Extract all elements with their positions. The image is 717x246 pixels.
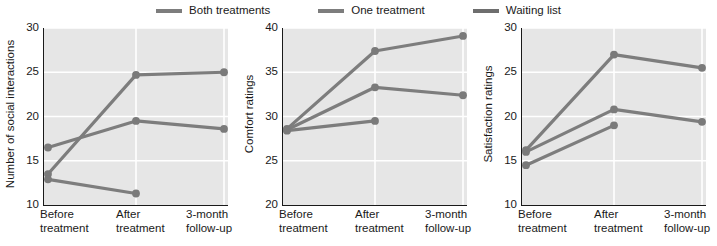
x-tick-label-line: treatment [279, 222, 328, 236]
data-point-marker [610, 106, 618, 114]
x-tick-label-line: Before [279, 208, 328, 222]
y-axis-tick-labels: 1015202530 [494, 22, 520, 205]
x-tick-label: Beforetreatment [40, 208, 89, 235]
x-axis-tick-labels: BeforetreatmentAftertreatment3-monthfoll… [283, 208, 467, 244]
chart-panel-3: Satisfaction ratings1015202530Beforetrea… [478, 22, 717, 246]
x-tick-label-line: follow-up [186, 222, 232, 236]
x-tick-label-line: treatment [594, 222, 643, 236]
figure-root: Both treatmentsOne treatmentWaiting list… [0, 0, 717, 246]
y-axis-title-text: Number of social interactions [4, 39, 16, 187]
x-tick-label-line: treatment [518, 222, 567, 236]
legend-label-one: One treatment [351, 5, 425, 17]
x-tick-label: 3-monthfollow-up [664, 208, 710, 235]
x-tick-label-line: follow-up [664, 222, 710, 236]
x-axis-line [521, 205, 706, 206]
y-tick-label: 40 [265, 22, 278, 34]
data-point-marker [522, 148, 530, 156]
y-tick-label: 25 [265, 155, 278, 167]
data-point-marker [132, 190, 140, 198]
x-tick-label: Beforetreatment [518, 208, 567, 235]
data-point-marker [459, 32, 467, 40]
y-axis-line [282, 28, 283, 205]
data-point-marker [459, 91, 467, 99]
data-point-marker [283, 127, 291, 135]
chart-panel-1: Number of social interactions1015202530B… [0, 22, 239, 246]
y-tick-label: 10 [504, 199, 517, 211]
x-tick-label-line: 3-month [186, 208, 232, 222]
legend-swatch-one [318, 9, 344, 13]
data-point-marker [698, 64, 706, 72]
data-point-marker [371, 47, 379, 55]
y-tick-label: 15 [504, 155, 517, 167]
x-tick-label-line: 3-month [425, 208, 471, 222]
x-tick-label: Aftertreatment [116, 208, 165, 235]
y-tick-label: 20 [26, 111, 39, 123]
x-axis-tick-labels: BeforetreatmentAftertreatment3-monthfoll… [522, 208, 706, 244]
y-axis-tick-labels: 2025303540 [255, 22, 281, 205]
data-point-marker [220, 68, 228, 76]
plot-canvas [44, 28, 228, 205]
x-axis-tick-labels: BeforetreatmentAftertreatment3-monthfoll… [44, 208, 228, 244]
legend-label-waiting: Waiting list [506, 5, 561, 17]
data-point-marker [371, 117, 379, 125]
x-tick-label-line: After [594, 208, 643, 222]
x-tick-label: Beforetreatment [279, 208, 328, 235]
y-tick-label: 20 [504, 111, 517, 123]
panel-group: Number of social interactions1015202530B… [0, 22, 717, 246]
x-axis-line [282, 205, 467, 206]
plot-canvas [522, 28, 706, 205]
data-point-marker [220, 125, 228, 133]
y-tick-label: 10 [26, 199, 39, 211]
x-tick-label: 3-monthfollow-up [186, 208, 232, 235]
x-tick-label-line: 3-month [664, 208, 710, 222]
x-tick-label: 3-monthfollow-up [425, 208, 471, 235]
data-point-marker [371, 83, 379, 91]
y-tick-label: 35 [265, 67, 278, 79]
x-tick-label-line: follow-up [425, 222, 471, 236]
data-point-marker [698, 118, 706, 126]
x-axis-line [43, 205, 228, 206]
y-tick-label: 25 [26, 67, 39, 79]
plot-area [522, 28, 706, 205]
y-tick-label: 30 [265, 111, 278, 123]
y-tick-label: 15 [26, 155, 39, 167]
legend-item-one[interactable]: One treatment [318, 5, 425, 17]
data-point-marker [44, 144, 52, 152]
plot-area [283, 28, 467, 205]
legend: Both treatmentsOne treatmentWaiting list [0, 0, 717, 22]
x-tick-label-line: treatment [40, 222, 89, 236]
x-tick-label-line: Before [40, 208, 89, 222]
plot-area [44, 28, 228, 205]
y-axis-title-text: Comfort ratings [243, 74, 255, 153]
plot-canvas [283, 28, 467, 205]
y-tick-label: 20 [265, 199, 278, 211]
y-axis-title-text: Satisfaction ratings [482, 65, 494, 162]
data-point-marker [522, 161, 530, 169]
y-axis-line [43, 28, 44, 205]
legend-swatch-both [156, 9, 182, 13]
x-tick-label-line: After [355, 208, 404, 222]
data-point-marker [132, 71, 140, 79]
y-axis-tick-labels: 1015202530 [16, 22, 42, 205]
x-tick-label-line: treatment [116, 222, 165, 236]
data-point-marker [44, 175, 52, 183]
x-tick-label: Aftertreatment [594, 208, 643, 235]
legend-label-both: Both treatments [189, 5, 270, 17]
y-axis-line [521, 28, 522, 205]
series-line [48, 179, 136, 193]
data-point-marker [610, 51, 618, 59]
legend-item-both[interactable]: Both treatments [156, 5, 270, 17]
y-tick-label: 30 [26, 22, 39, 34]
y-tick-label: 25 [504, 67, 517, 79]
legend-item-waiting[interactable]: Waiting list [473, 5, 561, 17]
y-tick-label: 30 [504, 22, 517, 34]
x-tick-label-line: Before [518, 208, 567, 222]
x-tick-label: Aftertreatment [355, 208, 404, 235]
data-point-marker [132, 117, 140, 125]
chart-panel-2: Comfort ratings2025303540Beforetreatment… [239, 22, 478, 246]
data-point-marker [610, 121, 618, 129]
legend-swatch-waiting [473, 9, 499, 13]
x-tick-label-line: treatment [355, 222, 404, 236]
x-tick-label-line: After [116, 208, 165, 222]
